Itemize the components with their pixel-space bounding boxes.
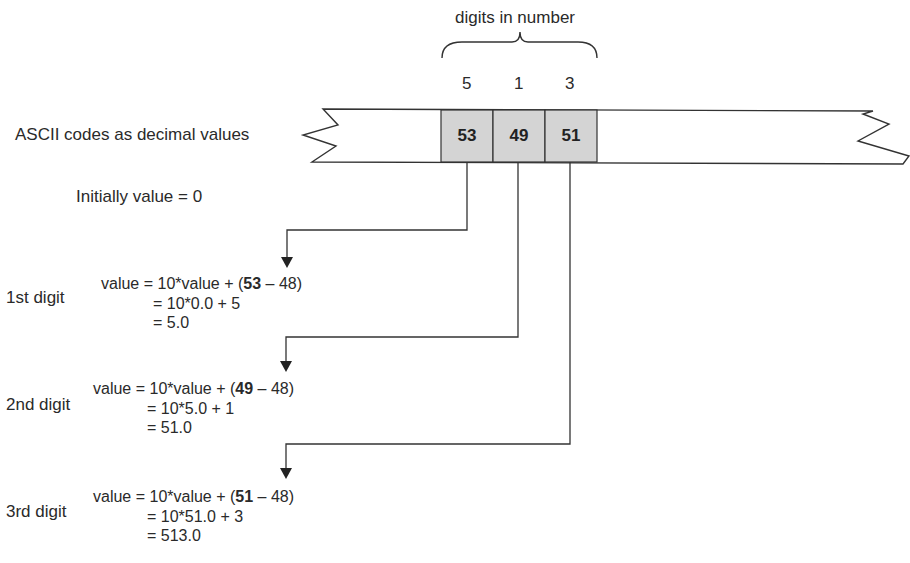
digits-title: digits in number [455,8,575,28]
connector-3 [286,162,570,469]
connector-1 [287,162,467,258]
digit-label: 3 [565,74,574,94]
digit-label: 5 [462,74,471,94]
step-equation-line: = 51.0 [147,419,192,437]
step-equation: value = 10*value + (53 – 48) [101,275,302,293]
tape-label: ASCII codes as decimal values [15,125,249,145]
memory-tape [303,109,909,164]
initial-value: Initially value = 0 [76,187,202,207]
connector-2 [286,162,518,362]
step-label: 1st digit [6,288,65,308]
step-equation-line: = 5.0 [153,314,189,332]
step-equation: value = 10*value + (49 – 48) [93,380,294,398]
step-equation-line: = 513.0 [147,527,201,545]
step-equation-line: = 10*5.0 + 1 [147,400,234,418]
step-equation: value = 10*value + (51 – 48) [93,488,294,506]
step-label: 2nd digit [6,395,70,415]
ascii-code-cell: 53 [441,110,493,162]
ascii-code-cell: 51 [545,110,597,162]
arrowhead-2 [280,361,292,372]
brace [442,32,597,58]
step-label: 3rd digit [6,502,66,522]
arrowhead-1 [281,257,293,268]
digit-label: 1 [514,74,523,94]
step-equation-line: = 10*51.0 + 3 [147,508,243,526]
step-equation-line: = 10*0.0 + 5 [153,295,240,313]
ascii-code-cell: 49 [493,110,545,162]
arrowhead-3 [280,468,292,479]
